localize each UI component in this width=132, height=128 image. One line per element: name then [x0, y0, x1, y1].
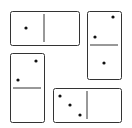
pip-dot — [111, 15, 114, 18]
domino-4 — [54, 89, 122, 123]
pip-dot — [16, 78, 19, 81]
pip-dot — [102, 61, 105, 64]
dominoes-canvas — [0, 0, 132, 128]
pip-dot — [58, 94, 61, 97]
domino-body — [11, 12, 80, 46]
pip-dot — [78, 113, 81, 116]
pip-dot — [24, 26, 27, 29]
pip-dot — [93, 35, 96, 38]
pip-dot — [34, 59, 37, 62]
domino-1 — [11, 12, 80, 46]
domino-2 — [88, 12, 122, 80]
domino-3 — [11, 54, 45, 123]
pip-dot — [68, 103, 71, 106]
